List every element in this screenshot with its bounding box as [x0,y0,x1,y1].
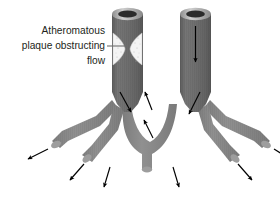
right-artery-trunk [180,8,211,112]
callout-line-1: Atheromatous [42,25,105,36]
left-artery-trunk [112,8,143,112]
left-trunk-lumen-opening [118,10,137,17]
left-trunk-texture [112,14,143,112]
callout-line-3: flow [87,55,106,66]
callout-line-2: plaque obstructing [22,40,106,51]
right-trunk-lumen-opening [186,10,205,17]
anatomical-diagram: Atheromatous plaque obstructing flow [0,0,280,198]
artery-illustration: Atheromatous plaque obstructing flow [0,0,280,198]
